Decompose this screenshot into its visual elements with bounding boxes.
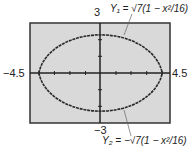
ymax-label: 3 xyxy=(94,7,100,18)
equation-y1: Y₁ = √7(1 − x²/16) xyxy=(110,4,188,14)
xmax-label: 4.5 xyxy=(172,68,187,79)
equation-y2: Y₂ = −√7(1 − x²/16) xyxy=(102,136,187,146)
xmin-label: −4.5 xyxy=(3,68,25,79)
